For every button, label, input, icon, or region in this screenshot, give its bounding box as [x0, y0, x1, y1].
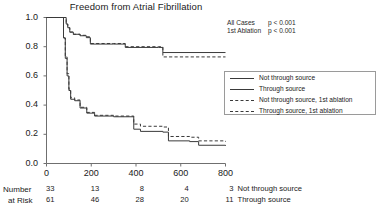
x-tick-label: 200: [76, 168, 106, 178]
y-tick-label: 0.2: [14, 128, 38, 138]
x-tick-label: 400: [121, 168, 151, 178]
y-tick-label: 0.4: [14, 99, 38, 109]
legend-line-icon-solid-0: [230, 78, 254, 79]
series-line-3: [47, 18, 226, 142]
legend-item-0: Not through source: [225, 73, 375, 83]
legend-label-3: Through source, 1st ablation: [259, 106, 343, 116]
risk-value: 8: [128, 184, 144, 193]
y-tick-label: 0.6: [14, 70, 38, 80]
legend-item-3: Through source, 1st ablation: [225, 106, 375, 116]
kaplan-meier-figure: Freedom from Atrial Fibrillation All Cas…: [0, 0, 381, 224]
legend-label-2: Not through source, 1st ablation: [259, 95, 352, 105]
y-tick-label: 0.8: [14, 41, 38, 51]
x-tick-label: 800: [211, 168, 241, 178]
legend-label-1: Through source: [259, 84, 305, 94]
series-line-0: [47, 18, 226, 53]
x-tick-label: 600: [166, 168, 196, 178]
legend-line-icon-solid-1: [230, 89, 254, 90]
risk-series-name: Through source: [238, 195, 291, 204]
risk-value: 3: [218, 184, 234, 193]
y-tick-label: 1.0: [14, 12, 38, 22]
risk-value: 46: [83, 195, 99, 204]
y-tick-label: 0.0: [14, 158, 38, 168]
risk-value: 4: [173, 184, 189, 193]
x-tick-label: 0: [32, 168, 62, 178]
series-line-2: [47, 18, 226, 57]
series-line-1: [47, 18, 226, 146]
risk-value: 33: [39, 184, 55, 193]
legend: Not through source Through source Not th…: [224, 71, 376, 115]
number-at-risk-table: Number at Risk 3313843Not through source…: [0, 184, 381, 210]
risk-table-label-line2: at Risk: [8, 196, 32, 205]
risk-value: 13: [83, 184, 99, 193]
risk-value: 20: [173, 195, 189, 204]
legend-item-1: Through source: [225, 84, 375, 94]
legend-line-icon-dashed-3: [230, 111, 254, 112]
risk-value: 11: [218, 195, 234, 204]
legend-line-icon-dashed-2: [230, 100, 254, 101]
risk-table-label-line1: Number: [3, 185, 31, 194]
legend-label-0: Not through source: [259, 73, 315, 83]
legend-item-2: Not through source, 1st ablation: [225, 95, 375, 105]
risk-value: 28: [128, 195, 144, 204]
risk-series-name: Not through source: [238, 184, 303, 193]
risk-value: 61: [39, 195, 55, 204]
